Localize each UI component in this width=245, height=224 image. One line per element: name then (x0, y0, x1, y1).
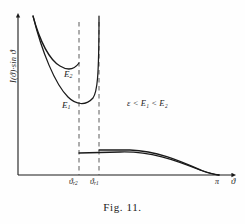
curve-E2 (33, 16, 79, 69)
x-tick-label-theta-r2: ϑr2 (69, 178, 78, 186)
lower-branch-E2 (79, 152, 219, 175)
lower-branch-E1 (99, 150, 219, 175)
plot-canvas (0, 0, 245, 224)
x-axis-label: ϑ (231, 177, 235, 186)
figure-container: E2 E1 ε < E₁ < E₂ ϑr2 ϑr1 π ϑ I(ϑ)·sin ϑ… (0, 0, 245, 224)
curve-E1 (33, 16, 99, 104)
x-tick-label-theta-r1: ϑr1 (90, 178, 99, 186)
curve-label-E2: E2 (64, 70, 72, 80)
x-tick-label-pi: π (215, 178, 219, 186)
inequality-annotation: ε < E₁ < E₂ (127, 99, 168, 108)
figure-caption: Fig. 11. (0, 201, 245, 213)
y-axis-label: I(ϑ)·sin ϑ (9, 50, 18, 83)
curve-label-E1: E1 (62, 101, 70, 111)
